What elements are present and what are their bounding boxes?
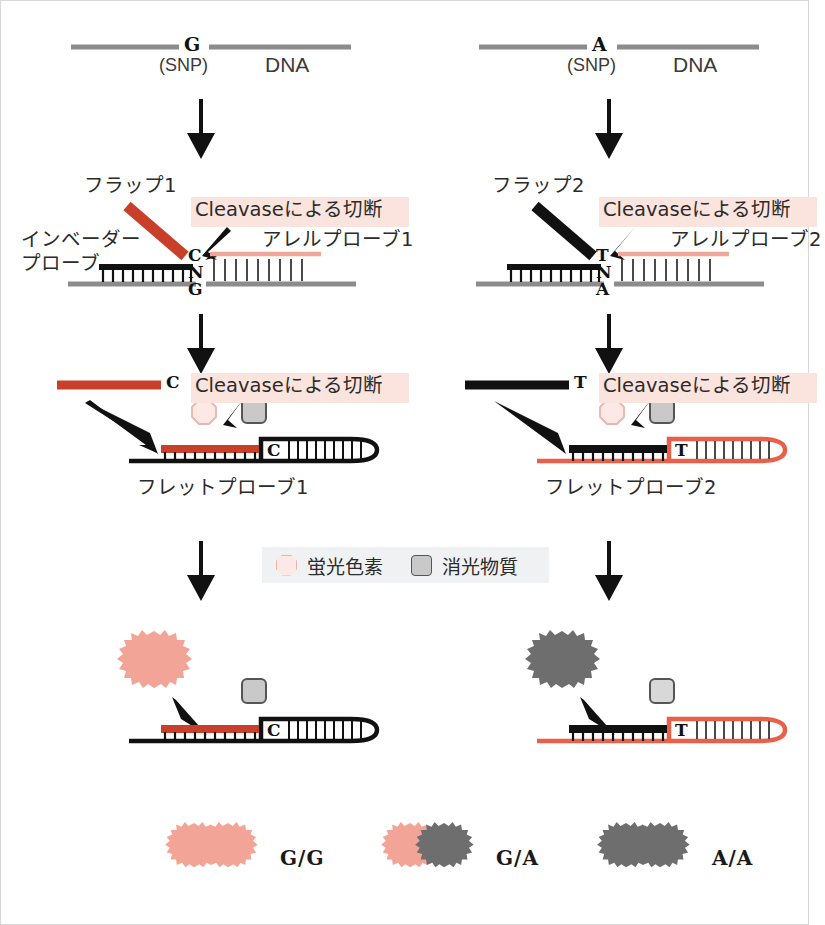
dna-duplex-left [61, 37, 361, 63]
flap2-label: フラップ2 [492, 175, 584, 197]
cleavase-label-right-stage3: Cleavaseによる切断 [603, 375, 791, 397]
invader-probe-label-line2: プローブ [21, 253, 100, 275]
invader-probe-label-line1: インベーダー [21, 229, 141, 251]
snp-caption-right: (SNP) [567, 55, 616, 76]
cleaved-flap1-base: C [166, 372, 180, 392]
flow-arrow-right-2 [581, 314, 637, 376]
base-right-bottom: A [596, 279, 609, 299]
genotype-label-ga: G/A [496, 846, 539, 870]
stage4-right-signal-quenched: T [429, 601, 825, 761]
fret-probe2-label: フレットプローブ2 [545, 477, 716, 499]
burst-pair-gg [156, 819, 266, 897]
stage4-left-graphic [21, 601, 421, 761]
stage1-left-genomic-dna: G (SNP) DNA [61, 37, 361, 63]
cleavase-label-left-stage3: Cleavaseによる切断 [195, 375, 383, 397]
stage3-left-fret-probe: Cleavaseによる切断 フレットプローブ1 [21, 373, 421, 478]
quencher-burst-right [525, 630, 600, 688]
result-aa: A/A [588, 819, 753, 897]
flow-arrow-left-3 [173, 541, 229, 603]
base-left-bottom: G [188, 279, 203, 299]
flap1-label: フラップ1 [84, 175, 176, 197]
allele-probe2-label: アレルプローブ2 [670, 229, 821, 251]
quencher-icon [411, 555, 432, 576]
genotype-label-gg: G/G [280, 846, 324, 870]
snp-base-right: A [592, 33, 607, 55]
result-gg: G/G [156, 819, 324, 897]
legend-quencher-label: 消光物質 [442, 552, 518, 579]
cleaved-flap2-base: T [574, 372, 587, 392]
snp-caption-left: (SNP) [159, 55, 208, 76]
snp-base-left: G [184, 33, 200, 55]
dna-label-left: DNA [265, 53, 309, 77]
fluorophore-icon [276, 555, 297, 576]
stage4-left-signal-release: C [21, 601, 421, 761]
dna-duplex-right [469, 37, 769, 63]
genotype-label-aa: A/A [712, 846, 753, 870]
stage3-right-fret-probe: Cleavaseによる切断 フレットプローブ2 T T [429, 373, 825, 478]
hairpin1-base-stage4: C [267, 720, 281, 740]
cleavase-label-left-stage2: Cleavaseによる切断 [195, 199, 383, 221]
legend-fluorophore-label: 蛍光色素 [307, 552, 383, 579]
stage4-right-graphic [429, 601, 825, 761]
hairpin2-base: T [675, 440, 688, 460]
stage2-left-cleavage-complex: フラップ1 Cleavaseによる切断 インベーダー プローブ アレルプローブ1 [21, 181, 421, 316]
cleavase-label-right-stage2: Cleavaseによる切断 [603, 199, 791, 221]
allele-probe1-label: アレルプローブ1 [262, 229, 413, 251]
fluorophore-burst-left [117, 630, 192, 688]
stage1-right-genomic-dna: A (SNP) DNA [469, 37, 769, 63]
dna-label-right: DNA [673, 53, 717, 77]
flow-arrow-left-1 [173, 99, 229, 161]
flow-arrow-right-3 [581, 541, 637, 603]
burst-pair-aa [588, 819, 698, 897]
flow-arrow-left-2 [173, 314, 229, 376]
stage2-right-cleavage-complex: フラップ2 Cleavaseによる切断 アレルプローブ2 T N A [429, 181, 825, 316]
hairpin1-base: C [267, 440, 281, 460]
result-ga: G/A [372, 819, 539, 897]
flow-arrow-right-1 [581, 99, 637, 161]
burst-pair-ga [372, 819, 482, 897]
legend: 蛍光色素 消光物質 [262, 547, 549, 583]
fret-probe1-label: フレットプローブ1 [137, 477, 308, 499]
hairpin2-base-stage4: T [675, 720, 688, 740]
